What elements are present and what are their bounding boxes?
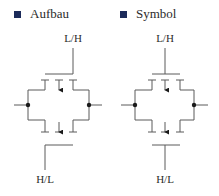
transmission-gate-diagrams (0, 0, 219, 196)
symbol-node-left (133, 103, 137, 107)
aufbau-node-left (26, 103, 30, 107)
symbol-diagram (121, 48, 208, 170)
aufbau-node-right (87, 103, 91, 107)
aufbau-diagram (14, 48, 102, 170)
symbol-node-right (192, 103, 196, 107)
